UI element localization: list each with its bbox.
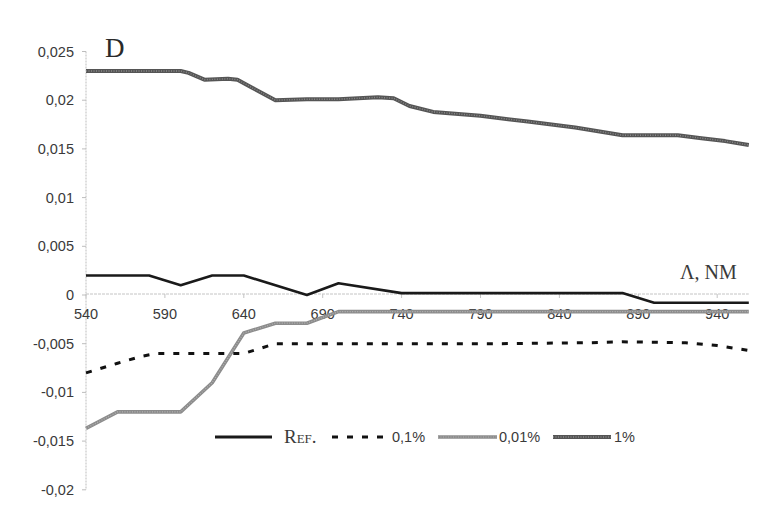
- y-tick-label: -0,005: [33, 336, 74, 352]
- x-tick-label: 790: [468, 306, 492, 322]
- legend-label-1-percent: 1%: [614, 429, 635, 445]
- line-chart: 0,0250,020,0150,010,0050-0,005-0,01-0,01…: [0, 0, 780, 525]
- y-tick-label: -0,015: [33, 433, 74, 449]
- x-tick-label: 740: [389, 306, 413, 322]
- legend-item-ref: Ref.: [215, 426, 317, 447]
- y-axis-title: D: [105, 33, 125, 63]
- y-tick-label: 0: [66, 287, 74, 303]
- y-tick-label: 0,005: [38, 238, 74, 254]
- series-line-0-01-texture: [86, 312, 749, 429]
- y-tick-label: 0,015: [38, 141, 74, 157]
- y-tick-label: 0,01: [46, 190, 74, 206]
- y-tick-label: 0,025: [38, 44, 74, 60]
- legend-label-0-1-percent: 0,1%: [392, 429, 425, 445]
- legend-label-0-01-percent: 0,01%: [499, 429, 540, 445]
- x-axis: 540590640690740790840890940: [74, 294, 749, 322]
- x-tick-label: 890: [626, 306, 650, 322]
- legend: Ref. 0,1% 0,01% 1%: [215, 426, 635, 447]
- y-tick-label: -0,01: [41, 384, 74, 400]
- x-tick-label: 640: [232, 306, 256, 322]
- series-line-0-1: [86, 342, 749, 373]
- y-tick-label: -0,02: [41, 482, 74, 498]
- series-layer: [86, 71, 749, 428]
- x-tick-label: 940: [705, 306, 729, 322]
- series-line-0-01: [86, 312, 749, 429]
- legend-item-0-1-percent: 0,1%: [332, 429, 425, 445]
- x-tick-label: 840: [547, 306, 571, 322]
- legend-item-0-01-percent: 0,01%: [438, 429, 540, 445]
- y-tick-label: 0,02: [46, 92, 74, 108]
- legend-item-1-percent: 1%: [553, 429, 635, 445]
- x-tick-label: 590: [153, 306, 177, 322]
- x-axis-title: Λ, NM: [680, 261, 737, 283]
- series-line-ref: [86, 276, 749, 303]
- legend-label-ref: Ref.: [284, 426, 317, 447]
- x-tick-label: 540: [74, 306, 98, 322]
- y-axis: 0,0250,020,0150,010,0050-0,005-0,01-0,01…: [33, 44, 86, 498]
